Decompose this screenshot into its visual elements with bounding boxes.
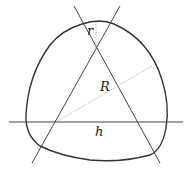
rounded-triangle-outline xyxy=(26,21,167,161)
label-R: R xyxy=(100,80,110,93)
label-r: r xyxy=(87,24,93,37)
reuleaux-like-diagram: r R h xyxy=(0,0,191,173)
label-h: h xyxy=(95,125,103,138)
diagram-canvas xyxy=(0,0,191,173)
